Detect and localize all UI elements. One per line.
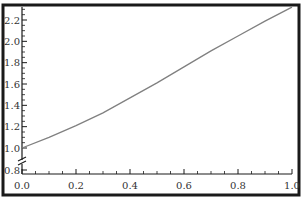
y-tick-label: 2.2 (4, 15, 20, 26)
x-tick-label: 0.2 (68, 180, 84, 191)
y-tick-label: 2.0 (4, 36, 20, 47)
x-tick-label: 0.0 (14, 180, 30, 191)
x-tick-label: 0.4 (122, 180, 138, 191)
y-tick-label: 1.2 (4, 121, 20, 132)
y-axis-ticks: 0.81.01.21.41.61.82.02.2 (4, 9, 27, 175)
chart-frame (3, 5, 299, 195)
x-tick-label: 1.0 (284, 180, 300, 191)
data-line (22, 7, 292, 148)
y-tick-label: 1.0 (4, 143, 20, 154)
axes (22, 7, 292, 174)
x-tick-label: 0.8 (230, 180, 246, 191)
y-tick-label: 1.6 (4, 79, 20, 90)
y-tick-label: 0.8 (4, 165, 20, 176)
y-tick-label: 1.8 (4, 57, 20, 68)
line-chart: 0.81.01.21.41.61.82.02.2 0.00.20.40.60.8… (0, 0, 303, 199)
x-axis-ticks: 0.00.20.40.60.81.0 (14, 169, 300, 191)
y-tick-label: 1.4 (4, 100, 20, 111)
x-tick-label: 0.6 (176, 180, 192, 191)
